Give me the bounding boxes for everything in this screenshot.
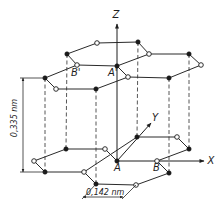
graphite-lattice-diagram: Z X Y ABA'B' 0,335 nm 0,142 nm [0, 0, 219, 211]
lattice-svg: Z X Y ABA'B' 0,335 nm 0,142 nm [0, 0, 219, 211]
carbon-atom-filled [135, 135, 139, 139]
coordinate-axes: Z X Y [112, 9, 216, 166]
bond-line [67, 43, 97, 54]
carbon-atom-filled [187, 147, 191, 151]
point-label-b: B [153, 162, 160, 173]
bond-line [117, 54, 149, 66]
carbon-atom-filled [136, 40, 140, 44]
bond-line [136, 173, 169, 185]
carbon-atom-open [32, 159, 37, 164]
carbon-atom-open [54, 87, 59, 92]
carbon-atom-open [95, 41, 100, 46]
carbon-atom-open [126, 75, 131, 80]
carbon-atom-open [103, 147, 108, 152]
point-label-a-prime: A' [107, 67, 118, 78]
carbon-atom-filled [94, 87, 98, 91]
carbon-atom-open [147, 52, 152, 57]
bond-line [96, 184, 136, 185]
z-axis-label: Z [112, 9, 121, 20]
bond-line [157, 149, 189, 161]
projection-dashed-line [137, 42, 138, 137]
carbon-atom-open [82, 170, 87, 175]
interlayer-spacing-label: 0,335 nm [10, 99, 19, 138]
point-label-a: A [113, 162, 121, 173]
interlayer-spacing-dimension: 0,335 nm [10, 78, 45, 172]
bond-line [128, 77, 169, 78]
carbon-atom-open [175, 135, 180, 140]
bond-line [77, 65, 117, 66]
y-axis-label: Y [152, 112, 159, 123]
bond-length-label: 0,142 nm [86, 188, 125, 197]
carbon-atom-filled [187, 52, 191, 56]
y-axis [117, 123, 151, 161]
projection-dashed-line [66, 54, 67, 149]
carbon-atom-open [199, 63, 204, 68]
upper-layer-bonds [45, 42, 201, 89]
x-axis-label: X [207, 155, 216, 166]
point-labels: ABA'B' [71, 67, 160, 173]
carbon-atom-filled [167, 171, 171, 175]
carbon-atom-filled [64, 147, 68, 151]
bond-length-dimension: 0,142 nm [82, 184, 136, 199]
point-label-b-prime: B' [71, 67, 81, 78]
bond-line [96, 77, 128, 89]
carbon-atom-filled [65, 52, 69, 56]
bond-line [34, 149, 66, 161]
bond-line [169, 65, 201, 78]
carbon-atom-filled [167, 76, 171, 80]
